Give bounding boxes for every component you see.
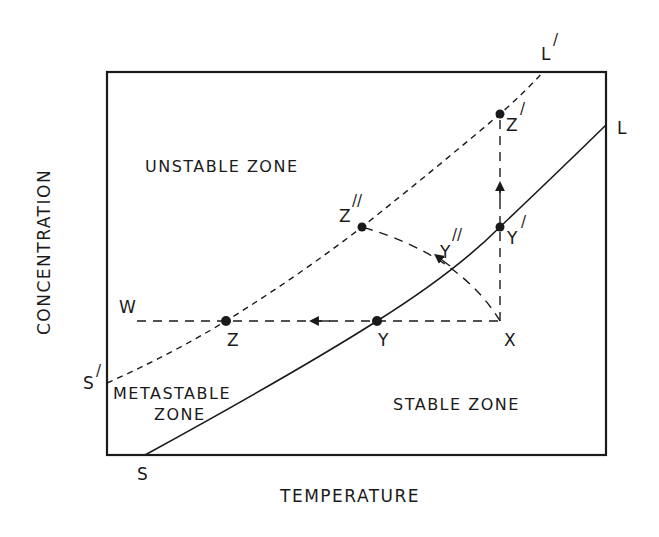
point-y: [372, 316, 382, 326]
solubility-diagram: UNSTABLE ZONE METASTABLE ZONE STABLE ZON…: [0, 0, 659, 537]
label-z: Z: [227, 330, 239, 350]
label-w: W: [119, 297, 136, 317]
x-axis-label: TEMPERATURE: [279, 486, 420, 506]
label-s: S: [137, 464, 148, 484]
label-z-prime-mark: /: [520, 100, 526, 118]
label-l: L: [617, 118, 627, 138]
label-z-double-prime: Z: [339, 206, 351, 226]
supersolubility-curve: [107, 72, 543, 383]
label-y: Y: [377, 330, 389, 350]
metastable-zone-label-line2: ZONE: [154, 405, 206, 424]
label-s-prime: S: [83, 373, 94, 393]
label-y-double-prime: Y: [439, 242, 451, 262]
unstable-zone-label: UNSTABLE ZONE: [145, 157, 299, 176]
label-y-prime: Y: [506, 228, 518, 248]
label-s-prime-mark: /: [96, 362, 102, 380]
label-x: X: [504, 330, 516, 350]
label-z-prime: Z: [506, 115, 518, 135]
point-z-prime: [496, 110, 505, 119]
label-l-prime: L: [541, 44, 551, 64]
y-axis-label: CONCENTRATION: [34, 169, 54, 335]
label-l-prime-mark: /: [553, 31, 559, 49]
point-y-prime: [496, 223, 505, 232]
label-z-double-prime-mark: //: [352, 192, 363, 210]
label-y-double-prime-mark: //: [452, 226, 463, 244]
combined-path-arc: [362, 227, 500, 321]
stable-zone-label: STABLE ZONE: [393, 395, 520, 414]
point-z-double-prime: [358, 223, 367, 232]
point-z: [221, 316, 231, 326]
metastable-zone-label-line1: METASTABLE: [113, 384, 231, 403]
label-y-prime-mark: /: [521, 213, 527, 231]
